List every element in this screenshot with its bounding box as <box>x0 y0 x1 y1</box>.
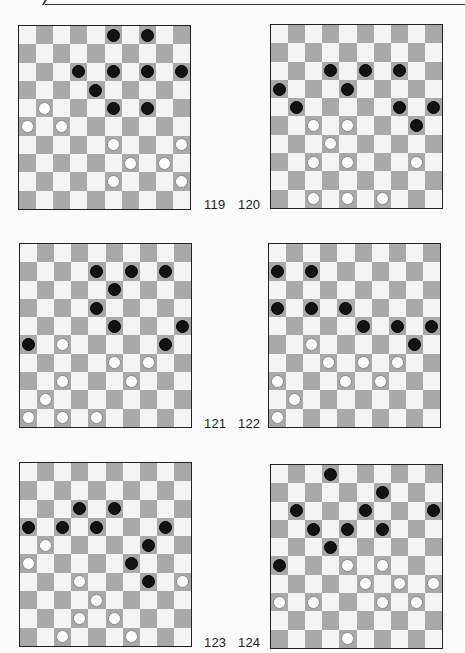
black-piece <box>341 523 354 536</box>
dark-square <box>425 25 442 43</box>
light-square <box>54 390 71 408</box>
dark-square <box>37 609 54 627</box>
dark-square <box>37 536 54 554</box>
light-square <box>123 463 140 481</box>
light-square <box>320 299 337 317</box>
light-square <box>269 354 286 372</box>
dark-square <box>305 556 322 574</box>
light-square <box>425 43 442 61</box>
dark-square <box>408 593 425 611</box>
light-square <box>71 372 88 390</box>
light-square <box>54 609 71 627</box>
light-square <box>70 154 87 172</box>
white-piece <box>341 559 354 572</box>
dark-square <box>357 62 374 80</box>
white-piece <box>56 411 69 424</box>
checkers-board-120 <box>270 24 443 209</box>
dark-square <box>339 116 356 134</box>
dark-square <box>391 611 408 629</box>
dark-square <box>271 153 288 171</box>
white-piece <box>410 156 423 169</box>
light-square <box>372 244 389 262</box>
light-square <box>288 630 305 648</box>
light-square <box>337 317 354 335</box>
light-square <box>157 317 174 335</box>
dark-square <box>425 171 442 189</box>
dark-square <box>305 80 322 98</box>
dark-square <box>337 372 354 390</box>
light-square <box>305 98 322 116</box>
light-square <box>357 190 374 208</box>
light-square <box>271 171 288 189</box>
dark-square <box>123 591 140 609</box>
dark-square <box>337 299 354 317</box>
light-square <box>288 80 305 98</box>
dark-square <box>391 575 408 593</box>
dark-square <box>339 153 356 171</box>
white-piece <box>175 138 188 151</box>
dark-square <box>423 281 440 299</box>
dark-square <box>322 502 339 520</box>
light-square <box>288 593 305 611</box>
dark-square <box>88 554 105 572</box>
white-piece <box>176 575 189 588</box>
dark-square <box>389 390 406 408</box>
dark-square <box>339 190 356 208</box>
dark-square <box>105 172 122 190</box>
light-square <box>374 135 391 153</box>
light-square <box>408 538 425 556</box>
light-square <box>105 191 122 209</box>
light-square <box>123 390 140 408</box>
white-piece <box>376 192 389 205</box>
light-square <box>173 154 190 172</box>
dark-square <box>71 317 88 335</box>
dark-square <box>305 520 322 538</box>
diagram-number-122: 122 <box>238 416 260 431</box>
light-square <box>122 26 139 44</box>
dark-square <box>87 117 104 135</box>
dark-square <box>320 281 337 299</box>
light-square <box>305 575 322 593</box>
light-square <box>106 409 123 427</box>
dark-square <box>425 502 442 520</box>
light-square <box>269 281 286 299</box>
light-square <box>288 43 305 61</box>
dark-square <box>123 481 140 499</box>
light-square <box>425 116 442 134</box>
light-square <box>20 500 37 518</box>
light-square <box>408 502 425 520</box>
light-square <box>288 116 305 134</box>
light-square <box>105 44 122 62</box>
dark-square <box>406 262 423 280</box>
dark-square <box>71 609 88 627</box>
dark-square <box>70 172 87 190</box>
white-piece <box>108 612 121 625</box>
dark-square <box>320 390 337 408</box>
white-piece <box>341 156 354 169</box>
light-square <box>122 172 139 190</box>
light-square <box>355 335 372 353</box>
dark-square <box>71 390 88 408</box>
light-square <box>271 62 288 80</box>
light-square <box>157 573 174 591</box>
light-square <box>408 171 425 189</box>
dark-square <box>106 317 123 335</box>
dark-square <box>389 317 406 335</box>
light-square <box>174 335 191 353</box>
light-square <box>37 299 54 317</box>
black-piece <box>159 521 172 534</box>
dark-square <box>271 190 288 208</box>
dark-square <box>288 62 305 80</box>
light-square <box>157 463 174 481</box>
white-piece <box>393 577 406 590</box>
light-square <box>174 262 191 280</box>
light-square <box>36 154 53 172</box>
light-square <box>105 154 122 172</box>
light-square <box>339 62 356 80</box>
light-square <box>71 591 88 609</box>
white-piece <box>125 375 138 388</box>
light-square <box>425 153 442 171</box>
dark-square <box>105 99 122 117</box>
dark-square <box>70 136 87 154</box>
dark-square <box>339 80 356 98</box>
